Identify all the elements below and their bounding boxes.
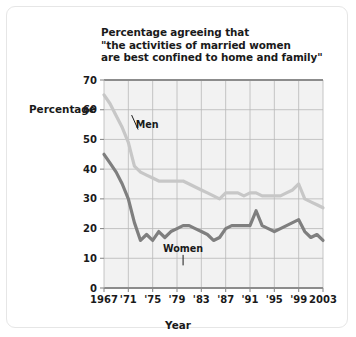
x-tick-label: 1967	[90, 294, 118, 305]
line-chart-plot: 0102030405060701967'71'75'79'83'87'91'95…	[7, 7, 349, 329]
series-label-men: Men	[136, 119, 159, 130]
series-label-women: Women	[163, 243, 203, 254]
y-tick-label: 30	[83, 193, 97, 204]
x-tick-label: '91	[242, 294, 259, 305]
x-tick-label: 2003	[309, 294, 337, 305]
y-tick-label: 40	[83, 164, 97, 175]
y-tick-label: 0	[90, 283, 97, 294]
y-tick-label: 70	[83, 75, 97, 86]
y-tick-label: 60	[83, 104, 97, 115]
x-tick-label: '75	[144, 294, 161, 305]
x-tick-label: '83	[193, 294, 210, 305]
x-tick-label: '79	[169, 294, 186, 305]
x-tick-label: '95	[266, 294, 283, 305]
y-tick-label: 20	[83, 223, 97, 234]
plot-background	[104, 80, 323, 288]
y-tick-label: 10	[83, 253, 97, 264]
x-tick-label: '99	[290, 294, 307, 305]
x-tick-label: '87	[217, 294, 234, 305]
figure-card: Percentage agreeing that "the activities…	[6, 6, 348, 328]
y-tick-label: 50	[83, 134, 97, 145]
x-tick-label: '71	[120, 294, 137, 305]
